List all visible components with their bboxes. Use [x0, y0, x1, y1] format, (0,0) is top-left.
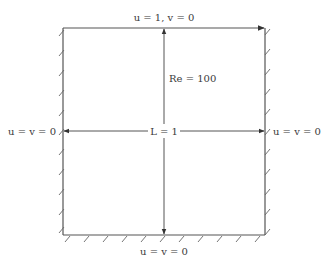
length-label: L = 1: [150, 126, 178, 137]
cavity-diagram: u = 1, v = 0 Re = 100 L = 1 u = v = 0 u …: [0, 0, 325, 266]
bottom-wall-hatching: [65, 236, 260, 242]
top-boundary-label: u = 1, v = 0: [134, 12, 195, 23]
right-boundary-label: u = v = 0: [273, 126, 321, 137]
bottom-boundary-label: u = v = 0: [140, 246, 188, 257]
right-wall-hatching: [265, 29, 270, 235]
left-boundary-label: u = v = 0: [8, 126, 56, 137]
reynolds-number-label: Re = 100: [169, 73, 216, 84]
